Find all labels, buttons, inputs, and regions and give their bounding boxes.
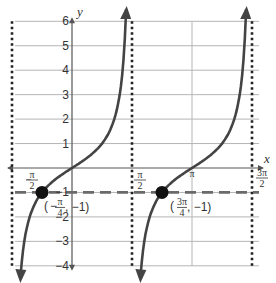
point-1-label-rest: , −1) — [65, 200, 89, 214]
x-tick-pi-half-num: π — [137, 169, 142, 180]
curve-branch-1-arrow-up-icon — [120, 6, 131, 19]
point-1-label-sign: − — [50, 199, 57, 213]
y-axis-arrow-down-icon — [69, 265, 75, 271]
y-tick-5: 5 — [62, 39, 69, 53]
y-tick-3: 3 — [62, 88, 69, 102]
x-tick-neg-pi-half-den: 2 — [30, 180, 35, 191]
y-tick-2: 2 — [62, 112, 69, 126]
tangent-graph: yx 654321−1−2−3−4−π2π2π3π2(−π4, −1)(3π4,… — [0, 0, 276, 283]
x-tick-pi-half-den: 2 — [138, 180, 143, 191]
curve-branch-2-arrow-down-icon — [135, 269, 146, 283]
curve-branch-2-arrow-up-icon — [240, 6, 251, 19]
point-2 — [156, 186, 169, 199]
x-tick-3pi-half: 3π2 — [256, 167, 268, 189]
point-2-label: (3π4, −1) — [170, 196, 211, 218]
x-tick-pi: π — [189, 168, 194, 179]
point-2-label-num: 3π — [177, 196, 187, 207]
y-tick--4: −4 — [55, 259, 69, 273]
y-tick--3: −3 — [55, 234, 69, 248]
y-tick-1: 1 — [62, 137, 69, 151]
y-tick-6: 6 — [62, 14, 69, 28]
point-2-label-rest: , −1) — [187, 200, 211, 214]
curve-branch-1-arrow-down-icon — [15, 269, 26, 283]
y-tick-4: 4 — [62, 63, 69, 77]
y-axis-label: y — [75, 4, 83, 19]
x-tick-neg-pi-half: −π2 — [26, 169, 38, 191]
x-tick-3pi-half-den: 2 — [260, 178, 265, 189]
point-1-label-open: ( — [44, 199, 48, 213]
x-tick-pi-half: π2 — [134, 169, 146, 191]
axes: yx — [7, 4, 270, 271]
x-tick-neg-pi-half-num: π — [29, 169, 34, 180]
y-axis-arrow-up-icon — [69, 17, 75, 23]
point-1 — [35, 186, 48, 199]
point-1-label-den: 4 — [58, 207, 63, 218]
x-tick-3pi-half-num: 3π — [257, 167, 267, 178]
point-1-label-num: π — [57, 196, 62, 207]
x-axis-label: x — [263, 151, 270, 166]
point-2-label-open: ( — [170, 199, 174, 213]
point-2-label-den: 4 — [180, 207, 185, 218]
